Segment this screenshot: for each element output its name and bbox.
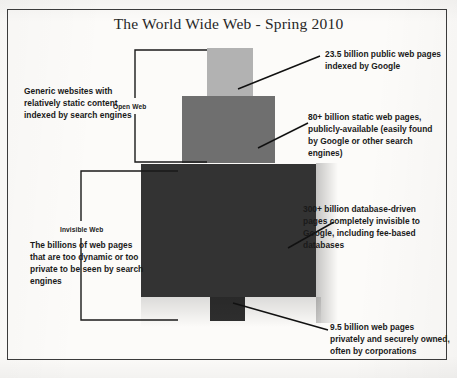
bar-static-public [182,96,275,163]
callout-invisible-web-paragraph: The billions of web pages that are too d… [30,240,146,288]
callout-static-public: 80+ billion static web pages, publicly-a… [308,112,440,160]
bracket-label-invisible-web: Invisible Web [60,226,103,233]
page-title: The World Wide Web - Spring 2010 [0,15,457,33]
callout-private-owned: 9.5 billion web pages privately and secu… [330,322,450,358]
callout-google-indexed: 23.5 billion public web pages indexed by… [325,49,445,73]
callout-generic-websites: Generic websites with relatively static … [24,86,132,122]
bar-google-indexed [207,48,253,96]
bar-database-driven [141,164,316,297]
callout-database-driven: 300+ billion database-driven pages compl… [303,204,439,252]
bar-private-owned [210,297,245,321]
infographic-page: The World Wide Web - Spring 2010 Open We… [0,0,457,378]
